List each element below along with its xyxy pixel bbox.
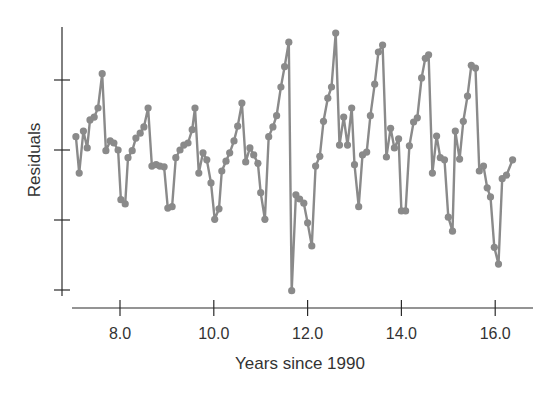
data-point-marker [391,144,398,151]
data-point-marker [495,261,502,268]
data-point-marker [491,244,498,251]
x-axis: 8.010.012.014.016.0 [72,300,533,342]
data-point-marker [184,139,191,146]
data-point-marker [464,93,471,100]
data-point-marker [169,203,176,210]
data-point-marker [254,160,261,167]
data-point-marker [348,104,355,111]
data-point-marker [387,125,394,132]
data-point-marker [261,216,268,223]
data-point-marker [332,29,339,36]
data-point-marker [472,65,479,72]
data-point-marker [191,104,198,111]
data-point-marker [115,146,122,153]
data-point-marker [207,179,214,186]
data-point-marker [460,118,467,125]
x-tick-label: 12.0 [292,325,323,342]
data-point-marker [91,114,98,121]
data-point-marker [324,95,331,102]
data-point-marker [414,114,421,121]
data-point-marker [172,154,179,161]
data-point-marker [218,167,225,174]
data-point-marker [80,128,87,135]
data-point-marker [433,132,440,139]
residuals-series [72,29,516,294]
data-point-marker [300,200,307,207]
data-point-marker [129,147,136,154]
x-tick-label: 10.0 [198,325,229,342]
x-tick-label: 14.0 [386,325,417,342]
y-axis-label: Residuals [25,123,44,198]
residuals-time-series-chart: 8.010.012.014.016.0 Years since 1990 Res… [0,0,556,393]
data-point-marker [288,287,295,294]
data-point-marker [94,104,101,111]
data-point-marker [140,123,147,130]
data-point-marker [265,133,272,140]
data-point-marker [480,163,487,170]
data-point-marker [203,156,210,163]
data-point-marker [250,151,257,158]
data-point-marker [452,128,459,135]
x-tick-label: 8.0 [109,325,131,342]
data-point-marker [456,156,463,163]
x-axis-label: Years since 1990 [235,354,365,373]
data-point-marker [84,144,91,151]
data-point-marker [509,156,516,163]
data-point-marker [449,228,456,235]
data-point-marker [122,200,129,207]
data-point-marker [355,203,362,210]
data-point-marker [277,83,284,90]
data-point-marker [328,83,335,90]
data-point-marker [351,161,358,168]
data-point-marker [110,139,117,146]
data-point-marker [72,133,79,140]
data-point-marker [406,142,413,149]
data-point-marker [320,118,327,125]
data-point-marker [304,219,311,226]
data-point-marker [367,112,374,119]
y-axis [54,27,70,296]
data-point-marker [189,126,196,133]
data-point-marker [230,137,237,144]
data-point-marker [281,63,288,70]
data-point-marker [102,147,109,154]
data-point-marker [484,184,491,191]
data-point-marker [336,142,343,149]
data-point-marker [211,216,218,223]
data-point-marker [375,48,382,55]
data-point-marker [340,114,347,121]
data-point-marker [344,142,351,149]
data-point-marker [137,130,144,137]
data-point-marker [124,154,131,161]
x-tick-label: 16.0 [480,325,511,342]
data-point-marker [402,207,409,214]
data-point-marker [215,205,222,212]
data-point-marker [503,172,510,179]
data-point-marker [285,39,292,46]
data-point-marker [371,81,378,88]
data-point-marker [226,149,233,156]
data-point-marker [222,158,229,165]
data-point-marker [418,74,425,81]
data-point-marker [246,144,253,151]
data-point-marker [273,112,280,119]
data-point-marker [363,149,370,156]
data-point-marker [195,170,202,177]
data-point-marker [429,170,436,177]
data-point-marker [316,153,323,160]
data-point-marker [308,242,315,249]
data-point-marker [379,41,386,48]
data-point-marker [441,156,448,163]
data-point-marker [234,123,241,130]
data-point-marker [99,70,106,77]
x-axis-ticks: 8.010.012.014.016.0 [109,300,511,342]
data-point-marker [487,193,494,200]
data-point-marker [76,170,83,177]
data-point-marker [257,189,264,196]
data-point-marker [161,163,168,170]
data-point-marker [425,51,432,58]
data-point-marker [242,158,249,165]
data-point-marker [199,149,206,156]
data-point-marker [145,104,152,111]
data-point-marker [269,123,276,130]
